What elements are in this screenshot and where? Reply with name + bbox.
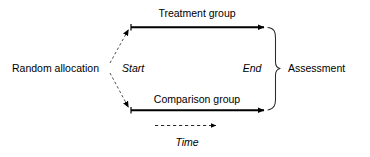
node-label-assessment: Assessment (288, 63, 345, 74)
node-label-comparison-group: Comparison group (154, 94, 240, 105)
edge-allocation-to-comparison (110, 73, 129, 108)
node-label-treatment-group: Treatment group (158, 8, 235, 19)
node-label-random-allocation: Random allocation (12, 63, 99, 74)
diagram-canvas: Random allocation Start Treatment group … (0, 0, 370, 157)
node-label-end: End (243, 63, 262, 74)
node-label-time: Time (175, 137, 198, 148)
assessment-brace (268, 28, 280, 111)
node-label-start: Start (122, 63, 144, 74)
diagram-graphics (0, 0, 370, 157)
edge-allocation-to-treatment (110, 30, 129, 64)
